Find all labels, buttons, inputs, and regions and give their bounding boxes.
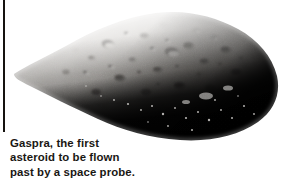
- caption-line-2: asteroid to be flown: [10, 150, 180, 164]
- figure-caption: Gaspra, the first asteroid to be flown p…: [10, 136, 180, 179]
- asteroid-illustration: [0, 0, 289, 150]
- film-grain: [0, 0, 289, 150]
- caption-line-1: Gaspra, the first: [10, 136, 180, 150]
- asteroid-image: [0, 0, 289, 150]
- asteroid-body: [0, 0, 289, 150]
- gaspra-figure: Gaspra, the first asteroid to be flown p…: [0, 0, 289, 182]
- caption-line-3: past by a space probe.: [10, 165, 180, 179]
